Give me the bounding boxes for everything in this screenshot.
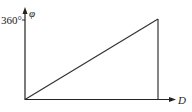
- y-axis-label: φ: [29, 7, 35, 19]
- ramp-line: [25, 19, 158, 100]
- y-axis-arrow-icon: [23, 7, 28, 14]
- x-axis-label: D: [177, 94, 186, 106]
- y-tick-label: 360°: [1, 14, 22, 26]
- phase-sawtooth-chart: 360° φ D: [0, 0, 192, 112]
- x-axis-arrow-icon: [169, 97, 176, 102]
